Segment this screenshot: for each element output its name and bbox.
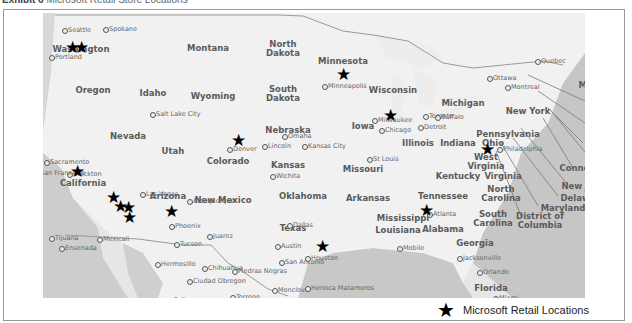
city-label-tijuana: Tijuana — [55, 235, 79, 242]
city-label-piedras-negras: Piedras Negras — [238, 268, 287, 275]
city-label-albuquerque: Albuquerque — [193, 198, 235, 205]
state-label-wyoming: Wyoming — [191, 92, 236, 101]
state-label-north-carolina: North Carolina — [471, 185, 531, 202]
state-label-south-dakota: South Dakota — [253, 85, 313, 102]
city-label-montreal: Montreal — [511, 84, 540, 91]
store-location-star-icon[interactable]: ★ — [164, 203, 179, 220]
city-label-juarez: Juarez — [213, 233, 233, 240]
city-label-austin: Austin — [281, 243, 301, 250]
city-label-miami: Miami — [499, 295, 519, 298]
store-location-star-icon[interactable]: ★ — [122, 209, 137, 226]
city-label-ensenada: Ensenada — [65, 245, 97, 252]
caption-prefix: Exhibit 6 — [2, 0, 44, 5]
state-label-montana: Montana — [187, 44, 229, 53]
store-location-star-icon[interactable]: ★ — [70, 163, 85, 180]
city-label-houston: Houston — [311, 255, 338, 262]
state-label-indiana: Indiana — [440, 139, 476, 148]
state-label-virginia: Virginia — [484, 172, 521, 181]
city-label-dallas: Dallas — [293, 222, 313, 229]
city-label-philadelphia: Philadelphia — [503, 146, 543, 153]
city-label-buffalo: Buffalo — [441, 114, 464, 121]
city-label-spokane: Spokane — [109, 26, 137, 33]
city-label-quebec: Quebec — [541, 58, 566, 65]
state-label-kansas: Kansas — [271, 161, 305, 170]
city-label-st-louis: St Louis — [373, 156, 399, 163]
city-label-atlanta: Atlanta — [433, 211, 456, 218]
caption-title: Microsoft Retail Store Locations — [46, 0, 187, 5]
city-label-heroica-matamoros: Heroica Matamoros — [311, 285, 374, 292]
city-label-phoenix: Phoenix — [175, 223, 201, 230]
state-label-missouri: Missouri — [343, 165, 384, 174]
city-label-orlando: Orlando — [483, 269, 509, 276]
state-label-nevada: Nevada — [110, 132, 146, 141]
store-location-star-icon[interactable]: ★ — [383, 107, 398, 124]
city-label-mobile: Mobile — [403, 245, 424, 252]
city-label-chicago: Chicago — [385, 127, 411, 134]
exhibit-caption: Exhibit 6 Microsoft Retail Store Locatio… — [2, 0, 188, 5]
state-label-michigan: Michigan — [441, 99, 484, 108]
state-label-illinois: Illinois — [402, 139, 434, 148]
city-label-ottawa: Ottawa — [493, 75, 517, 82]
city-label-jacksonville: Jacksonville — [463, 255, 501, 262]
state-label-oklahoma: Oklahoma — [279, 192, 327, 201]
state-label-pennsylvania: Pennsylvania — [476, 130, 540, 139]
state-label-colorado: Colorado — [207, 157, 250, 166]
state-label-wisconsin: Wisconsin — [369, 86, 417, 95]
city-label-mexicali: Mexicali — [103, 236, 129, 243]
store-location-star-icon[interactable]: ★ — [74, 39, 89, 56]
star-icon: ★ — [437, 300, 455, 320]
city-label-ciudad-obregon: Ciudad Obregon — [193, 278, 246, 285]
state-label-new-york: New York — [506, 107, 551, 116]
state-label-arkansas: Arkansas — [346, 194, 390, 203]
city-label-tucson: Tucson — [180, 241, 202, 248]
state-label-maine: Maine — [579, 81, 585, 90]
state-label-idaho: Idaho — [140, 89, 167, 98]
store-location-star-icon[interactable]: ★ — [231, 132, 246, 149]
state-label-alabama: Alabama — [422, 225, 464, 234]
state-label-georgia: Georgia — [456, 239, 494, 248]
legend-label: Microsoft Retail Locations — [463, 304, 589, 316]
store-location-star-icon[interactable]: ★ — [419, 202, 434, 219]
state-label-kentucky: Kentucky — [436, 172, 481, 181]
city-label-omaha: Omaha — [288, 133, 312, 140]
city-label-kansas-city: Kansas City — [308, 143, 346, 150]
city-label-hermosillo: Hermosillo — [161, 261, 196, 268]
city-label-wichita: Wichita — [276, 173, 300, 180]
city-label-seattle: Seattle — [68, 27, 91, 34]
state-label-north-dakota: North Dakota — [253, 40, 313, 57]
city-label-salt-lake-city: Salt Lake City — [156, 111, 200, 118]
city-label-minneapolis: Minneapolis — [328, 83, 367, 90]
city-label-detroit: Detroit — [424, 124, 446, 131]
state-label-iowa: Iowa — [352, 122, 375, 131]
state-label-new-jersey: New Jersey — [561, 182, 585, 191]
state-label-tennessee: Tennessee — [418, 192, 468, 201]
state-label-louisiana: Louisiana — [375, 226, 421, 235]
city-label-torreon: Torreon — [236, 294, 260, 298]
store-location-star-icon[interactable]: ★ — [336, 66, 351, 83]
city-label-culiacan: Culiacan — [173, 297, 201, 298]
state-label-connecticut: Connecticut — [559, 164, 585, 173]
us-map: WashingtonOregonIdahoMontanaWyomingNevad… — [43, 13, 585, 298]
map-legend: ★ Microsoft Retail Locations — [437, 300, 589, 320]
state-label-oregon: Oregon — [75, 86, 110, 95]
state-label-delaware: Delaware — [560, 194, 585, 203]
store-location-star-icon[interactable]: ★ — [315, 238, 330, 255]
state-label-utah: Utah — [162, 147, 185, 156]
city-label-las-vegas: Las Vegas — [146, 191, 179, 198]
store-location-star-icon[interactable]: ★ — [480, 141, 495, 158]
city-label-lincoln: Lincoln — [268, 143, 291, 150]
state-label-florida: Florida — [474, 284, 508, 293]
state-label-district-of-columbia: District of Columbia — [510, 212, 570, 229]
